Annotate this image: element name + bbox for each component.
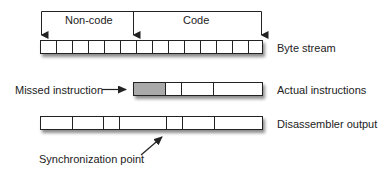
actual-instructions-row bbox=[133, 82, 263, 96]
disasm-cell bbox=[183, 117, 215, 129]
synchronization-point-label: Synchronization point bbox=[39, 153, 144, 165]
missed-instruction-cell bbox=[134, 83, 166, 95]
byte-cell bbox=[153, 41, 169, 53]
byte-cell bbox=[73, 41, 89, 53]
instruction-cell bbox=[182, 83, 214, 95]
byte-cell bbox=[89, 41, 105, 53]
byte-cell bbox=[57, 41, 73, 53]
disassembler-output-label: Disassembler output bbox=[277, 118, 377, 130]
instruction-cell bbox=[214, 83, 262, 95]
actual-instructions-label: Actual instructions bbox=[277, 84, 366, 96]
byte-stream-label: Byte stream bbox=[277, 42, 336, 54]
byte-cell bbox=[137, 41, 153, 53]
disassembler-output-row bbox=[40, 116, 263, 130]
byte-cell bbox=[121, 41, 137, 53]
byte-cell bbox=[233, 41, 249, 53]
byte-stream-row bbox=[40, 40, 263, 54]
disasm-cell bbox=[73, 117, 104, 129]
disasm-cell bbox=[120, 117, 167, 129]
byte-cell bbox=[169, 41, 185, 53]
byte-cell bbox=[201, 41, 217, 53]
non-code-label: Non-code bbox=[65, 14, 113, 26]
code-label: Code bbox=[183, 14, 209, 26]
missed-instruction-label: Missed instruction bbox=[15, 84, 103, 96]
byte-cell bbox=[105, 41, 121, 53]
disasm-cell bbox=[41, 117, 73, 129]
byte-cell bbox=[185, 41, 201, 53]
disassembly-diagram: Non-code Code Byte stream Missed instruc… bbox=[0, 0, 382, 173]
disasm-cell bbox=[104, 117, 120, 129]
byte-cell bbox=[217, 41, 233, 53]
byte-cell bbox=[41, 41, 57, 53]
byte-cell bbox=[249, 41, 262, 53]
disasm-cell bbox=[167, 117, 183, 129]
instruction-cell bbox=[166, 83, 182, 95]
disasm-cell bbox=[215, 117, 262, 129]
